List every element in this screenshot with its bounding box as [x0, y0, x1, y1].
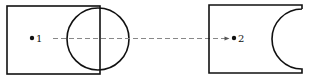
left-shape: 1	[7, 6, 129, 74]
point-2-marker	[232, 36, 236, 40]
point-1-marker	[30, 36, 34, 40]
point-2-label: 2	[238, 33, 244, 44]
point-1-label: 1	[36, 33, 42, 44]
diagram-canvas: 1 2	[0, 0, 309, 81]
left-rectangle	[7, 6, 100, 74]
